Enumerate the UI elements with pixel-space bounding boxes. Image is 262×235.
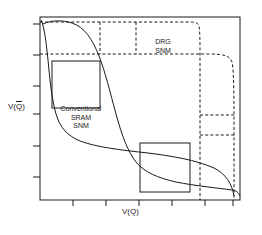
annotation-conventional-sram-snm: Conventional SRAM SNM: [53, 105, 109, 131]
y-axis-ticks: [33, 24, 40, 177]
conventional-snm-square-upper-left: [52, 61, 100, 108]
conventional-snm-square-lower-right: [140, 143, 190, 192]
y-axis-label-prefix: V(: [8, 102, 16, 111]
y-axis-label-suffix: ): [22, 102, 25, 111]
annotation-drg-snm-line2: SNM: [143, 47, 183, 56]
drg-snm-square-upper: [100, 22, 136, 54]
drg-snm-square-lower: [200, 115, 234, 135]
annotation-conventional-line1: Conventional: [53, 105, 109, 114]
x-axis-label: V(Q): [122, 207, 139, 216]
annotation-drg-snm-line1: DRG: [143, 38, 183, 47]
plot-canvas: [0, 0, 262, 235]
x-axis-ticks: [73, 200, 233, 206]
y-axis-label-overbar: Q: [16, 101, 22, 111]
annotation-conventional-line3: SNM: [53, 122, 109, 131]
butterfly-curve-figure: V(Q) V(Q) DRG SNM Conventional SRAM SNM: [0, 0, 262, 235]
y-axis-label: V(Q): [8, 101, 25, 111]
annotation-drg-snm: DRG SNM: [143, 38, 183, 55]
annotation-conventional-line2: SRAM: [53, 114, 109, 123]
